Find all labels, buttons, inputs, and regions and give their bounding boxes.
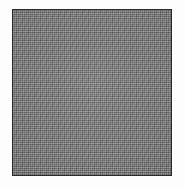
gray-swatch-plate	[12, 9, 172, 176]
edge-vignette-overlay	[13, 10, 171, 175]
figure-caption	[0, 178, 185, 188]
figure-canvas	[0, 0, 185, 188]
